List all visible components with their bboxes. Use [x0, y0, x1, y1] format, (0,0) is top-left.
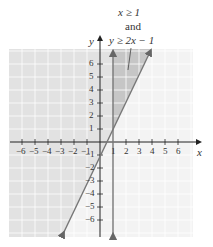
y-tick-label: −3 — [85, 175, 95, 185]
y-tick-label: −4 — [85, 188, 95, 198]
x-tick-label: −6 — [16, 146, 26, 156]
x-tick-label: 2 — [124, 146, 129, 156]
annotation-line-1: x ≥ 1 — [118, 6, 140, 18]
annotation-line-3: y ≥ 2x − 1 — [109, 34, 154, 46]
y-tick-label: 2 — [89, 110, 94, 120]
x-tick-label: −3 — [55, 146, 65, 156]
x-tick-label: 6 — [176, 146, 181, 156]
y-tick-label: −2 — [85, 162, 95, 172]
x-tick-label: 5 — [163, 146, 168, 156]
y-tick-label: 1 — [89, 123, 94, 133]
y-tick-label: 6 — [89, 58, 94, 68]
y-tick-label: 5 — [89, 71, 94, 81]
graph-canvas — [0, 0, 213, 247]
y-axis-label: y — [89, 35, 94, 47]
y-tick-label: −1 — [85, 149, 95, 159]
x-tick-label: −5 — [29, 146, 39, 156]
y-tick-label: 3 — [89, 97, 94, 107]
y-tick-label: 4 — [89, 84, 94, 94]
x-tick-label: 3 — [137, 146, 142, 156]
y-tick-label: −5 — [85, 201, 95, 211]
x-axis-label: x — [197, 146, 202, 158]
annotation-line-2: and — [125, 20, 141, 32]
x-tick-label: −4 — [42, 146, 52, 156]
x-tick-label: 1 — [111, 146, 116, 156]
y-tick-label: −6 — [85, 214, 95, 224]
x-tick-label: 4 — [150, 146, 155, 156]
x-tick-label: −2 — [68, 146, 78, 156]
